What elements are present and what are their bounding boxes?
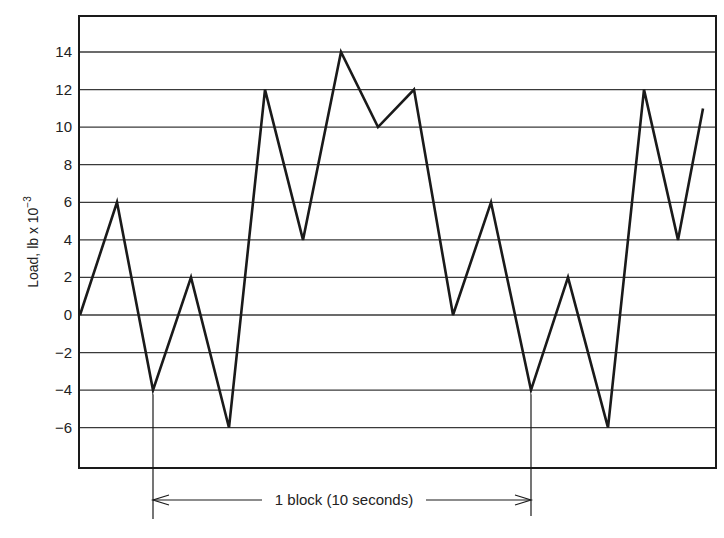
y-tick-label: −4 [55, 381, 72, 398]
y-tick-label: −2 [55, 344, 72, 361]
y-tick-label: 12 [55, 81, 72, 98]
y-axis-label-exponent: −3 [22, 196, 33, 208]
y-axis-label: Load, lb x 10−3 [22, 196, 41, 288]
y-tick-label: 10 [55, 118, 72, 135]
y-axis-label-text: Load, lb x 10 [25, 207, 41, 287]
y-tick-label: 0 [64, 306, 72, 323]
block-span-annotation: 1 block (10 seconds) [153, 394, 531, 519]
block-label: 1 block (10 seconds) [275, 491, 413, 508]
y-tick-label: 6 [64, 193, 72, 210]
load-history-chart: 14121086420−2−4−6 Load, lb x 10−3 1 bloc… [0, 0, 724, 538]
y-tick-label: −6 [55, 419, 72, 436]
y-tick-label: 14 [55, 43, 72, 60]
y-axis-tick-labels: 14121086420−2−4−6 [55, 43, 72, 436]
y-tick-label: 2 [64, 268, 72, 285]
y-tick-label: 8 [64, 156, 72, 173]
plot-frame [79, 16, 716, 468]
y-tick-label: 4 [64, 231, 72, 248]
svg-text:Load, lb x 10−3: Load, lb x 10−3 [22, 196, 41, 288]
